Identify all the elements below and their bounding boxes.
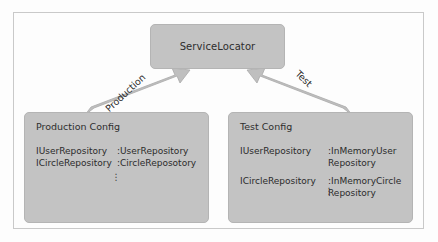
- vertical-ellipsis-icon: ⋮: [109, 175, 123, 181]
- interface-name: IUserRepository: [240, 146, 328, 158]
- table-row: ICircleRepository :InMemoryCircle Reposi…: [240, 176, 406, 199]
- interface-name: IUserRepository: [36, 146, 117, 158]
- implementation-name: :UserRepository: [117, 146, 202, 158]
- test-config-rows: IUserRepository :InMemoryUser Repository…: [240, 146, 406, 206]
- test-config-title: Test Config: [240, 121, 292, 132]
- production-config-title: Production Config: [36, 121, 120, 132]
- table-row: IUserRepository :InMemoryUser Repository: [240, 146, 406, 169]
- implementation-name: :InMemoryUser Repository: [328, 146, 406, 169]
- service-locator-title: ServiceLocator: [180, 41, 256, 52]
- implementation-name: :InMemoryCircle Repository: [328, 176, 406, 199]
- ellipsis-glyph: ⋮: [109, 175, 123, 181]
- vertical-ellipsis-icon: ⋮: [322, 189, 336, 195]
- implementation-name: :CircleReposotory: [117, 158, 202, 170]
- node-production-config[interactable]: Production Config IUserRepository :UserR…: [24, 112, 209, 223]
- interface-name: ICircleRepository: [240, 176, 328, 188]
- production-config-rows: IUserRepository :UserRepository ICircleR…: [36, 146, 202, 169]
- ellipsis-glyph: ⋮: [322, 189, 336, 195]
- diagram-canvas: ServiceLocator Production Test Productio…: [0, 0, 438, 242]
- interface-name: ICircleRepository: [36, 158, 117, 170]
- table-row: ICircleRepository :CircleReposotory: [36, 158, 202, 170]
- node-service-locator[interactable]: ServiceLocator: [150, 24, 285, 69]
- table-row: IUserRepository :UserRepository: [36, 146, 202, 158]
- node-test-config[interactable]: Test Config IUserRepository :InMemoryUse…: [228, 112, 413, 223]
